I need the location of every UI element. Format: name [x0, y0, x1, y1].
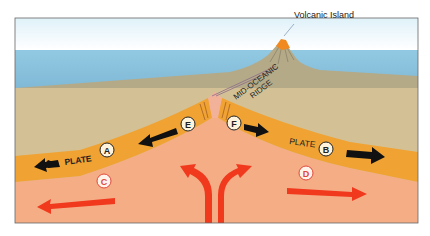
marker-d: D	[299, 166, 313, 180]
marker-a: A	[100, 143, 114, 157]
svg-text:E: E	[185, 120, 191, 130]
svg-text:A: A	[104, 146, 111, 156]
seafloor-spreading-diagram: Volcanic Island MID-OCEANIC RIDGE PLATE …	[0, 0, 430, 236]
svg-text:C: C	[101, 177, 108, 187]
marker-c: C	[97, 174, 111, 188]
marker-f: F	[227, 116, 241, 130]
marker-b: B	[319, 142, 333, 156]
marker-e: E	[181, 117, 195, 131]
sky	[15, 18, 418, 50]
svg-text:B: B	[323, 145, 330, 155]
label-volcanic-island: Volcanic Island	[294, 10, 354, 20]
svg-text:F: F	[231, 119, 237, 129]
svg-text:D: D	[303, 169, 310, 179]
